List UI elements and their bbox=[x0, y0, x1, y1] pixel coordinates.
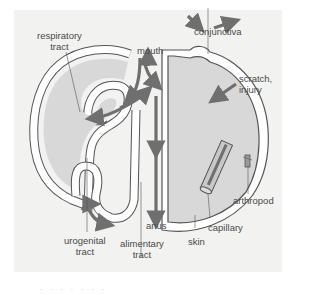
left-body-shape bbox=[34, 49, 130, 206]
label-skin: skin bbox=[188, 236, 205, 247]
label-anus: anus bbox=[146, 220, 167, 231]
label-scratch-injury: scratch, injury bbox=[239, 73, 272, 95]
label-conjunctiva: conjunctiva bbox=[194, 26, 242, 37]
conjunctiva-in-arrow bbox=[188, 16, 198, 26]
label-urogenital-tract: urogenital tract bbox=[64, 235, 106, 257]
label-alimentary-tract: alimentary tract bbox=[120, 238, 164, 260]
label-respiratory-tract: respiratory tract bbox=[37, 30, 82, 52]
mouth-in-arrow bbox=[144, 60, 156, 84]
label-mouth: mouth bbox=[137, 45, 163, 56]
figure-caption: · · · · · · · bbox=[40, 286, 260, 295]
label-capillary: capillary bbox=[208, 222, 243, 233]
label-arthropod: arthropod bbox=[233, 195, 274, 206]
